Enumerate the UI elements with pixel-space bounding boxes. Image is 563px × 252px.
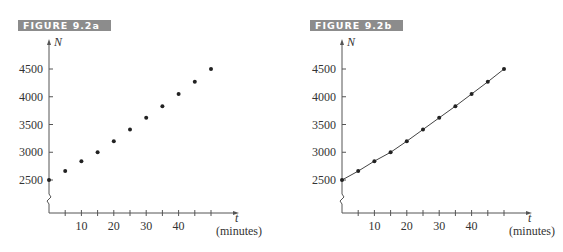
- data-point: [437, 116, 441, 120]
- x-tick-label: 30: [140, 219, 152, 233]
- data-point: [405, 139, 409, 143]
- x-tick-label: 30: [433, 219, 445, 233]
- data-point: [79, 159, 83, 163]
- x-axis-unit: (minutes): [216, 224, 262, 238]
- y-axis-label: N: [346, 35, 356, 49]
- data-point: [47, 178, 51, 182]
- y-axis-arrow-icon: [340, 39, 344, 45]
- data-point: [177, 92, 181, 96]
- data-point: [356, 169, 360, 173]
- data-point: [389, 150, 393, 154]
- data-point: [144, 116, 148, 120]
- y-tick-label: 4000: [312, 90, 336, 104]
- data-point: [160, 104, 164, 108]
- data-point: [421, 127, 425, 131]
- y-tick-label: 4500: [312, 62, 336, 76]
- x-tick-label: 40: [466, 219, 478, 233]
- data-point: [453, 104, 457, 108]
- data-line: [342, 69, 504, 180]
- data-point: [193, 80, 197, 84]
- y-tick-label: 3000: [312, 145, 336, 159]
- y-tick-label: 3500: [19, 118, 43, 132]
- data-point: [486, 80, 490, 84]
- y-tick-label: 2500: [19, 173, 43, 187]
- x-tick-label: 20: [401, 219, 413, 233]
- axis-break-icon: [340, 194, 344, 204]
- x-tick-label: 10: [75, 219, 87, 233]
- y-axis-arrow-icon: [47, 39, 51, 45]
- data-point: [96, 150, 100, 154]
- x-tick-label: 10: [368, 219, 380, 233]
- data-point: [112, 139, 116, 143]
- data-point: [63, 169, 67, 173]
- y-axis-label: N: [53, 35, 63, 49]
- data-point: [470, 92, 474, 96]
- data-point: [502, 67, 506, 71]
- y-tick-label: 3000: [19, 145, 43, 159]
- data-point: [372, 159, 376, 163]
- chart-9-2a: Nt(minutes)2500300035004000450010203040: [0, 0, 282, 252]
- y-tick-label: 3500: [312, 118, 336, 132]
- data-point: [209, 67, 213, 71]
- x-tick-label: 40: [173, 219, 185, 233]
- x-axis-unit: (minutes): [509, 224, 555, 238]
- y-tick-label: 4500: [19, 62, 43, 76]
- chart-9-2b: Nt(minutes)2500300035004000450010203040: [282, 0, 563, 252]
- x-tick-label: 20: [108, 219, 120, 233]
- data-point: [128, 127, 132, 131]
- figure-9-2a: FIGURE 9.2a Nt(minutes)25003000350040004…: [0, 0, 282, 252]
- figure-9-2b: FIGURE 9.2b Nt(minutes)25003000350040004…: [282, 0, 563, 252]
- axis-break-icon: [47, 194, 51, 204]
- data-point: [340, 178, 344, 182]
- y-tick-label: 4000: [19, 90, 43, 104]
- y-tick-label: 2500: [312, 173, 336, 187]
